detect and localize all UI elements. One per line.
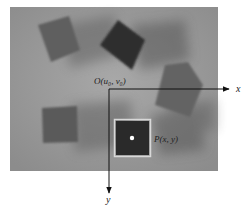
x-axis-label: x xyxy=(235,83,241,94)
target-point xyxy=(130,136,134,140)
y-axis-label: y xyxy=(105,194,111,205)
cube-bottom-left xyxy=(42,106,78,143)
coordinate-diagram: O(u₀, v₀) P(x, y) x y xyxy=(0,0,245,210)
origin-label: O(u₀, v₀) xyxy=(94,76,126,86)
point-label: P(x, y) xyxy=(153,134,178,144)
